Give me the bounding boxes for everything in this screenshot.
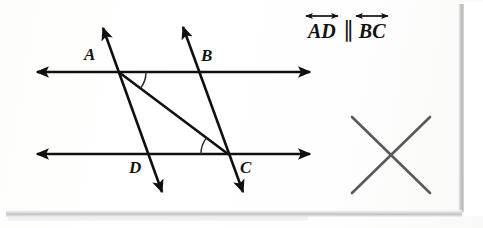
paper-edge-right-outer [464, 2, 483, 216]
worksheet-screenshot: A B D C AD ∥ BC [0, 0, 483, 228]
cross-out-mark-layer [0, 0, 483, 228]
paper-edge-bottom [6, 210, 462, 217]
paper-edge-bottom-secondary [8, 217, 308, 221]
cross-out-mark [352, 117, 430, 193]
